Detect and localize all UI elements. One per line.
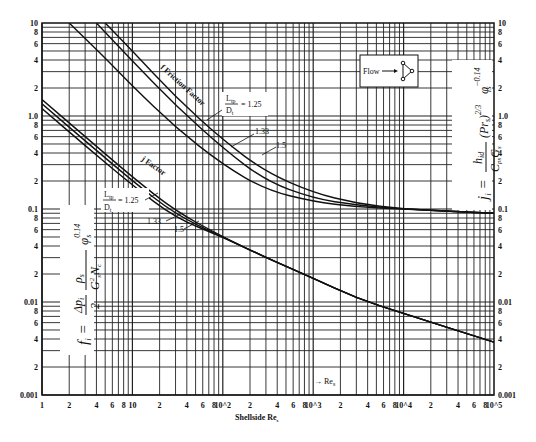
y-tick-label-left: 4 bbox=[34, 56, 38, 65]
x-tick-label: 10^2 bbox=[214, 401, 231, 410]
y-tick-label-right: 8 bbox=[498, 214, 502, 223]
y-tick-label-right: 2 bbox=[498, 363, 502, 372]
flow-diagram: Flow bbox=[360, 55, 418, 87]
friction-133-label: 1.33 bbox=[255, 127, 269, 136]
y-tick-label-right: 1.0 bbox=[498, 112, 508, 121]
y-tick-label-left: 2 bbox=[34, 270, 38, 279]
x-tick-label: 4 bbox=[366, 401, 370, 410]
x-tick-label: 4 bbox=[94, 401, 98, 410]
y-tick-label-left: 2 bbox=[34, 177, 38, 186]
y-tick-label-left: 6 bbox=[34, 226, 38, 235]
y-tick-label-right: 0.1 bbox=[498, 205, 508, 214]
y-tick-label-right: 4 bbox=[498, 56, 502, 65]
y-tick-label-left: 6 bbox=[34, 133, 38, 142]
y-tick-label-right: 2 bbox=[498, 84, 502, 93]
y-tick-label-right: 2 bbox=[498, 270, 502, 279]
y-tick-label-right: 4 bbox=[498, 242, 502, 251]
y-tick-label-left: 8 bbox=[34, 307, 38, 316]
x-tick-label: 4 bbox=[456, 401, 460, 410]
y-tick-label-left: 0.01 bbox=[24, 298, 38, 307]
y-tick-label-right: 0.01 bbox=[498, 298, 512, 307]
x-tick-label: 10 bbox=[128, 401, 136, 410]
svg-text:Δpi: Δpi bbox=[71, 298, 86, 314]
svg-text:ji =: ji = bbox=[475, 179, 493, 202]
x-tick-label: 2 bbox=[248, 401, 252, 410]
y-tick-label-left: 1.0 bbox=[28, 112, 38, 121]
data-curves bbox=[42, 23, 494, 342]
y-tick-label-left: 0.1 bbox=[28, 205, 38, 214]
x-tick-label: 10^5 bbox=[486, 401, 503, 410]
y-tick-label-left: 6 bbox=[34, 319, 38, 328]
y-tick-label-right: 6 bbox=[498, 40, 502, 49]
x-tick-label: 2 bbox=[67, 401, 71, 410]
y-tick-label-right: 8 bbox=[498, 121, 502, 130]
y-tick-label-right: 6 bbox=[498, 133, 502, 142]
j-15-label: 1.5 bbox=[174, 225, 184, 234]
friction-factor-label: f Friction Factor bbox=[159, 63, 208, 108]
y-tick-label-right: 8 bbox=[498, 28, 502, 37]
x-tick-label: 6 bbox=[291, 401, 295, 410]
y-tick-label-left: 8 bbox=[34, 121, 38, 130]
y-tick-label-right: 6 bbox=[498, 226, 502, 235]
j-factor-label: j Factor bbox=[139, 154, 168, 178]
y-tick-label-left: 4 bbox=[34, 335, 38, 344]
y-tick-label-left: 4 bbox=[34, 149, 38, 158]
y-tick-label-right: 6 bbox=[498, 319, 502, 328]
y-tick-label-right: 2 bbox=[498, 177, 502, 186]
x-tick-label: 6 bbox=[110, 401, 114, 410]
x-tick-label: 2 bbox=[429, 401, 433, 410]
svg-text:= 1.25: = 1.25 bbox=[241, 100, 262, 109]
tick-labels: 1246810246810^2246810^3246810^4246810^51… bbox=[20, 19, 516, 410]
y-tick-label-left: 0.001 bbox=[20, 391, 38, 400]
x-tick-label: 10^4 bbox=[395, 401, 412, 410]
y-tick-label-right: 10 bbox=[498, 19, 506, 28]
x-tick-label: 10^3 bbox=[305, 401, 322, 410]
re-arrow-label: → Res bbox=[314, 377, 336, 387]
x-tick-label: 6 bbox=[201, 401, 205, 410]
y-tick-label-left: 8 bbox=[34, 214, 38, 223]
y-tick-label-right: 0.001 bbox=[498, 391, 516, 400]
x-tick-label: 2 bbox=[158, 401, 162, 410]
y-tick-label-left: 8 bbox=[34, 28, 38, 37]
y-tick-label-left: 6 bbox=[34, 40, 38, 49]
y-tick-label-left: 2 bbox=[34, 84, 38, 93]
x-tick-label: 1 bbox=[40, 401, 44, 410]
chart: 1246810246810^2246810^3246810^4246810^51… bbox=[0, 0, 536, 442]
x-tick-label: 8 bbox=[122, 401, 126, 410]
x-tick-label: 4 bbox=[185, 401, 189, 410]
y-tick-label-left: 10 bbox=[30, 19, 38, 28]
x-tick-label: 6 bbox=[382, 401, 386, 410]
y-tick-label-right: 8 bbox=[498, 307, 502, 316]
x-tick-label: 6 bbox=[472, 401, 476, 410]
svg-text:Flow: Flow bbox=[363, 67, 380, 76]
y-tick-label-left: 2 bbox=[34, 363, 38, 372]
svg-text:fi =: fi = bbox=[75, 324, 93, 345]
x-axis-title: Shellside Res bbox=[235, 413, 279, 423]
j-133-label: 1.33 bbox=[147, 217, 161, 226]
svg-text:= 1.25: = 1.25 bbox=[118, 196, 139, 205]
x-tick-label: 4 bbox=[275, 401, 279, 410]
svg-text:2: 2 bbox=[88, 303, 102, 309]
y-tick-label-right: 4 bbox=[498, 335, 502, 344]
y-tick-label-left: 4 bbox=[34, 242, 38, 251]
friction-15-label: 1.5 bbox=[276, 141, 286, 150]
x-tick-label: 2 bbox=[338, 401, 342, 410]
